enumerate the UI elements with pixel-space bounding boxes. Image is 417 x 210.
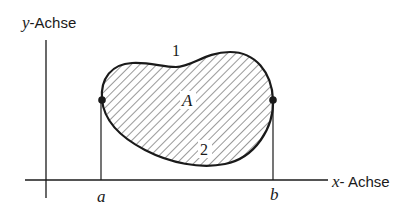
region-label: A [182,92,192,109]
y-axis-label: y-Achse [22,14,76,31]
x-axis-label: x- Achse [332,173,390,190]
point-a [98,96,106,104]
lower-curve-label: 2 [200,142,208,158]
x-axis-variable: x [332,172,340,191]
upper-curve-label: 1 [172,43,180,59]
point-b [269,96,277,104]
x-axis-text: - Achse [340,173,390,190]
bound-label-b: b [270,186,279,203]
y-axis-variable: y [22,13,30,32]
bound-label-a: a [97,188,106,205]
y-axis-text: -Achse [30,14,77,31]
